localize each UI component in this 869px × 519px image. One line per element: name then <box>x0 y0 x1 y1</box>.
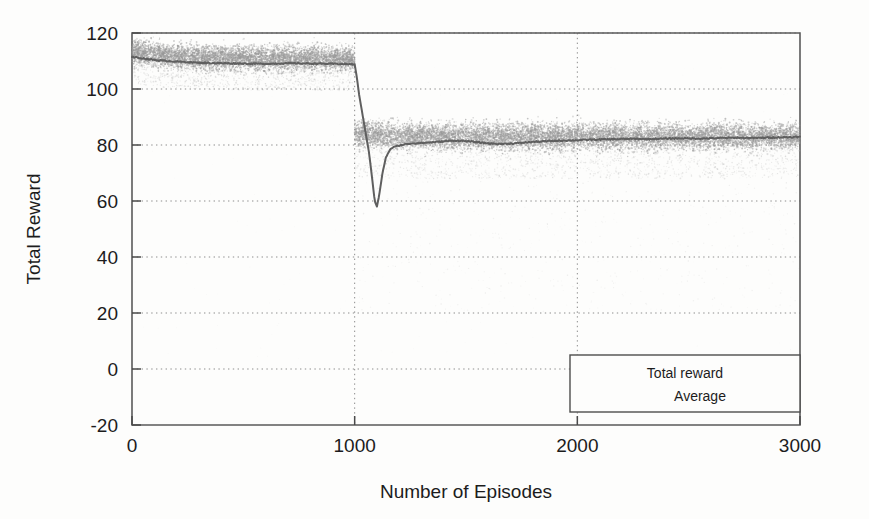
y-tick-label: 100 <box>86 79 118 100</box>
x-axis-title: Number of Episodes <box>380 481 552 502</box>
reward-chart: -20020406080100120 0100020003000 Total R… <box>0 0 869 519</box>
y-tick-label: 20 <box>97 303 118 324</box>
y-tick-label: 80 <box>97 135 118 156</box>
x-tick-label: 1000 <box>334 435 376 456</box>
y-tick-label: -20 <box>91 415 118 436</box>
y-tick-label: 0 <box>107 359 118 380</box>
x-tick-label: 0 <box>127 435 138 456</box>
chart-figure: -20020406080100120 0100020003000 Total R… <box>0 0 869 519</box>
y-tick-label: 120 <box>86 23 118 44</box>
scatter-points <box>131 36 801 369</box>
x-tick-label: 3000 <box>779 435 821 456</box>
y-tick-label: 40 <box>97 247 118 268</box>
chart-legend: Total reward Average <box>570 355 800 412</box>
y-tick-labels: -20020406080100120 <box>86 23 118 436</box>
x-tick-labels: 0100020003000 <box>127 435 821 456</box>
legend-label-total-reward: Total reward <box>647 365 723 381</box>
x-tick-label: 2000 <box>556 435 598 456</box>
y-axis-title: Total Reward <box>23 174 44 285</box>
legend-label-average: Average <box>674 388 726 404</box>
y-tick-label: 60 <box>97 191 118 212</box>
